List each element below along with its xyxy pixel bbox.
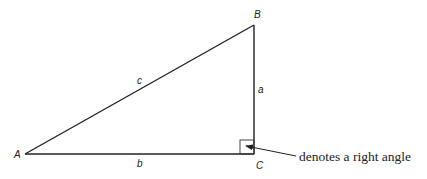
vertex-label-b: B <box>254 9 261 20</box>
right-angle-annotation: denotes a right angle <box>299 149 411 164</box>
vertex-label-c: C <box>256 160 264 171</box>
right-triangle-diagram: A B C a b c denotes a right angle <box>0 0 427 179</box>
side-label-b: b <box>137 158 143 169</box>
side-label-c: c <box>137 75 142 86</box>
side-c-hypotenuse <box>25 25 254 154</box>
side-label-a: a <box>258 84 264 95</box>
vertex-label-a: A <box>13 149 21 160</box>
